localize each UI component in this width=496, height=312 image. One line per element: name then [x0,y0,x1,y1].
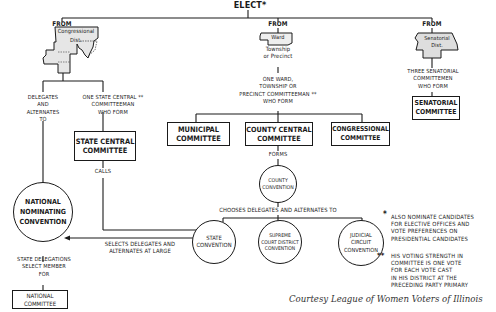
state-central-committeeman-label: ONE STATE CENTRAL ** COMMITTEEMAN WHO FO… [72,94,154,116]
national-nominating-convention-circle: NATIONAL NOMINATING CONVENTION [13,182,73,242]
congressional-committee-box: CONGRESSIONAL COMMITTEE [331,122,390,146]
selects-delegates-label: SELECTS DELEGATES AND ALTERNATES AT LARG… [90,241,190,256]
senatorial-committeemen-label: THREE SENATORIAL COMMITTEMEN WHO FORM [402,68,464,90]
footnote-1-text: ALSO NOMINATE CANDIDATES FOR ELECTIVE OF… [391,214,474,243]
municipal-committee-box: MUNICIPAL COMMITTEE [167,122,230,146]
forms-label: FORMS [264,151,292,158]
ward-map-sublabel: Township or Precinct [258,46,298,61]
national-committee-box: NATIONAL COMMITTEE [12,290,68,309]
senatorial-committee-box: SENATORIAL COMMITTEE [412,96,460,120]
footnote-2-text: HIS VOTING STRENGTH IN COMMITTEE IS ONE … [391,253,468,289]
from-label-senatorial: FROM [417,21,447,28]
calls-label: CALLS [91,168,115,175]
credit-line: Courtesy League of Women Voters of Illin… [289,294,483,304]
state-delegations-label: STATE DELEGATIONS SELECT MEMBER FOR [8,256,80,278]
footnote-marker-2: ** [377,252,384,259]
county-central-committee-box: COUNTY CENTRAL COMMITTEE [245,122,313,146]
chooses-delegates-label: CHOOSES DELEGATES AND ALTERNATES TO [198,207,358,214]
state-convention-circle: STATE CONVENTION [192,220,236,264]
supreme-court-district-convention-circle: SUPREME COURT DISTRICT CONVENTION [258,220,302,264]
delegates-alternates-label: DELEGATES AND ALTERNATES TO [18,94,68,124]
congressional-map-label: Congressional Dist. [52,27,100,45]
state-central-committee-box: STATE CENTRAL COMMITTEE [74,131,136,161]
senatorial-map-label: Senatorial Dist. [417,35,457,48]
county-convention-circle: COUNTY CONVENTION [259,165,297,203]
elect-title: ELECT* [222,0,278,10]
ward-committeeman-label: ONE WARD, TOWNSHIP OR PRECINCT COMMITTEE… [220,76,336,106]
ward-map-label: Ward [266,34,290,41]
from-label-ward: FROM [263,21,293,28]
footnote-marker-1: * [383,211,387,218]
